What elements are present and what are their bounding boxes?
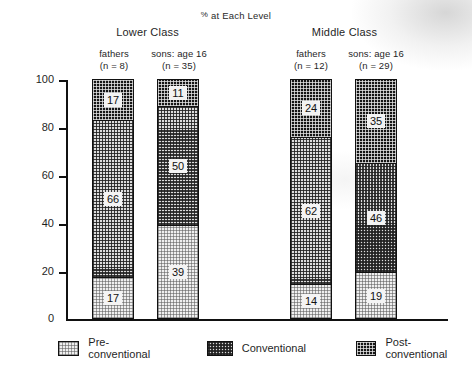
chart-title: % at Each Level <box>0 10 472 21</box>
legend-label: Post-conventional <box>385 336 452 360</box>
y-tick-0: 0 <box>0 319 68 321</box>
legend-item-pre-conventional[interactable]: Pre-conventional <box>58 336 155 360</box>
segment-value: 17 <box>105 292 121 304</box>
legend-swatch-pre-conventional-icon <box>58 341 79 356</box>
segment-post-conventional[interactable]: 11 <box>158 80 198 106</box>
caption-n: (n = 12) <box>279 60 343 72</box>
bar-caption-middle-sons: sons: age 16 (n = 29) <box>337 48 415 71</box>
bar-caption-middle-fathers: fathers (n = 12) <box>279 48 343 71</box>
chart-legend: Pre-conventional Conventional Post-conve… <box>40 333 450 363</box>
caption-label: fathers <box>296 48 326 59</box>
bar-middle-fathers[interactable]: 24 62 14 <box>290 79 332 319</box>
bar-caption-lower-sons: sons: age 16 (n = 35) <box>140 48 218 71</box>
segment-conventional[interactable]: 50 <box>158 106 198 225</box>
y-tick-label-0: 0 <box>20 312 54 324</box>
segment-conventional[interactable]: 46 <box>356 163 396 273</box>
y-tick-100: 100 <box>0 80 68 82</box>
y-tick-label-40: 40 <box>20 217 54 229</box>
segment-pre-conventional[interactable]: 19 <box>356 272 396 318</box>
y-tick-20: 20 <box>0 272 68 274</box>
x-axis-line <box>66 319 448 321</box>
bar-middle-sons[interactable]: 35 46 19 <box>355 79 397 319</box>
segment-value: 19 <box>368 290 384 302</box>
caption-n: (n = 35) <box>140 60 218 72</box>
bar-lower-fathers[interactable]: 17 66 17 <box>92 79 134 319</box>
stacked-bar-chart: % at Each Level Lower Class Middle Class… <box>0 0 472 376</box>
group-title-middle-class: Middle Class <box>292 26 397 38</box>
chart-title-text: at Each Level <box>208 10 271 21</box>
y-tick-60: 60 <box>0 176 68 178</box>
y-tick-label-20: 20 <box>20 265 54 277</box>
y-axis-line <box>66 80 68 321</box>
y-tick-80: 80 <box>0 128 68 130</box>
segment-post-conventional[interactable]: 17 <box>93 80 133 120</box>
legend-item-conventional[interactable]: Conventional <box>207 341 306 356</box>
segment-post-conventional[interactable]: 35 <box>356 80 396 163</box>
bar-lower-sons[interactable]: 11 50 39 <box>157 79 199 319</box>
legend-label: Conventional <box>242 342 306 354</box>
y-tick-40: 40 <box>0 224 68 226</box>
segment-conventional[interactable]: 66 <box>93 120 133 277</box>
segment-value: 14 <box>303 295 319 307</box>
group-title-lower-class: Lower Class <box>95 26 200 38</box>
caption-label: sons: age 16 <box>151 48 207 59</box>
segment-pre-conventional[interactable]: 14 <box>291 284 331 318</box>
caption-n: (n = 29) <box>337 60 415 72</box>
segment-value: 46 <box>368 212 384 224</box>
segment-conventional[interactable]: 62 <box>291 137 331 284</box>
caption-label: sons: age 16 <box>348 48 404 59</box>
legend-label: Pre-conventional <box>88 336 154 360</box>
bar-caption-lower-fathers: fathers (n = 8) <box>82 48 146 71</box>
segment-value: 35 <box>368 115 384 127</box>
caption-label: fathers <box>99 48 129 59</box>
legend-swatch-post-conventional-icon <box>356 341 376 356</box>
y-tick-label-60: 60 <box>20 169 54 181</box>
segment-value: 17 <box>105 94 121 106</box>
segment-value: 50 <box>170 160 186 172</box>
y-tick-label-100: 100 <box>20 73 54 85</box>
segment-value: 62 <box>303 205 319 217</box>
segment-value: 11 <box>170 87 185 99</box>
legend-swatch-conventional-icon <box>207 341 233 356</box>
segment-value: 24 <box>303 102 319 114</box>
legend-item-post-conventional[interactable]: Post-conventional <box>356 336 453 360</box>
segment-pre-conventional[interactable]: 39 <box>158 225 198 318</box>
segment-pre-conventional[interactable]: 17 <box>93 277 133 318</box>
segment-value: 39 <box>170 266 186 278</box>
segment-value: 66 <box>105 193 121 205</box>
y-tick-label-80: 80 <box>20 121 54 133</box>
caption-n: (n = 8) <box>82 60 146 72</box>
segment-post-conventional[interactable]: 24 <box>291 80 331 137</box>
